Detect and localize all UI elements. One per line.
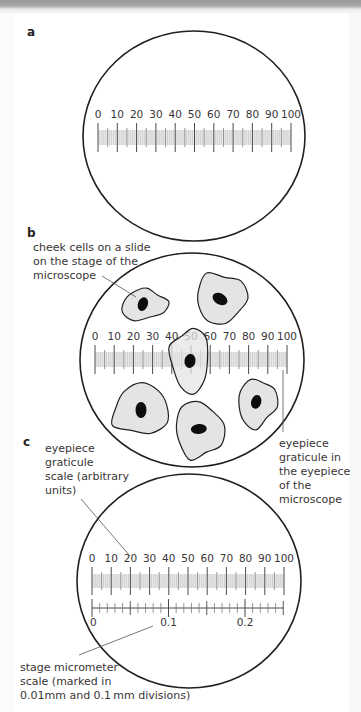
panel-c: c eyepiece graticule scale (arbitrary un… <box>20 435 301 702</box>
graticule-label: 0 <box>92 330 99 342</box>
graticule-label: 50 <box>181 552 194 564</box>
caption-line: microscope <box>33 269 96 282</box>
caption-line: graticule <box>45 456 94 469</box>
cheek-cell-5 <box>172 397 229 462</box>
graticule-label: 20 <box>127 330 140 342</box>
caption-line: units) <box>45 484 76 497</box>
cheek-cell-6 <box>234 377 282 433</box>
graticule-label: 70 <box>223 330 236 342</box>
caption-line: stage micrometer <box>20 661 118 674</box>
graticule-label: 10 <box>105 552 118 564</box>
caption-graticule-scale: eyepiece graticule scale (arbitrary unit… <box>45 442 133 497</box>
panel-a: a 0102030405060708090100 <box>27 25 305 241</box>
graticule-label: 60 <box>201 552 214 564</box>
graticule-label: 70 <box>220 552 233 564</box>
eyepiece-graticule-scale-a: 0102030405060708090100 <box>95 108 301 152</box>
microscope-graticule-diagram: a 0102030405060708090100 b cheek cells o… <box>0 0 361 712</box>
caption-line: scale (arbitrary <box>45 470 130 483</box>
graticule-label: 80 <box>242 330 255 342</box>
caption-line: the eyepiece <box>279 465 350 478</box>
panel-letter-b: b <box>27 226 36 240</box>
caption-line: on the stage of the <box>33 255 138 268</box>
graticule-label: 30 <box>149 108 162 120</box>
pointer-line-graticule-scale <box>81 499 130 556</box>
graticule-label: 0 <box>95 108 102 120</box>
graticule-label: 40 <box>169 108 182 120</box>
micrometer-label: 0.2 <box>237 616 254 628</box>
graticule-label: 80 <box>239 552 252 564</box>
graticule-label: 100 <box>281 108 301 120</box>
caption-line: cheek cells on a slide <box>33 241 151 254</box>
graticule-label: 50 <box>188 108 201 120</box>
graticule-label: 100 <box>274 552 294 564</box>
panel-letter-c: c <box>23 435 30 449</box>
panel-letter-a: a <box>27 25 35 39</box>
cheek-cell-4 <box>105 379 171 440</box>
graticule-label: 70 <box>226 108 239 120</box>
caption-line: eyepiece <box>45 442 95 455</box>
graticule-label: 20 <box>130 108 143 120</box>
caption-stage-micrometer: stage micrometer scale (marked in 0.01mm… <box>20 661 190 702</box>
graticule-label: 30 <box>143 552 156 564</box>
cell-nucleus <box>136 402 147 418</box>
graticule-label: 100 <box>277 330 297 342</box>
stage-micrometer-scale: 00.10.2 <box>90 599 284 628</box>
graticule-label: 90 <box>258 552 271 564</box>
caption-line: eyepiece <box>279 437 329 450</box>
graticule-label: 10 <box>108 330 121 342</box>
graticule-label: 60 <box>207 108 220 120</box>
caption-line: of the <box>279 479 311 492</box>
graticule-label: 90 <box>265 108 278 120</box>
cheek-cell-2 <box>198 272 248 324</box>
micrometer-label: 0 <box>90 616 97 628</box>
graticule-label: 0 <box>89 552 96 564</box>
graticule-label: 90 <box>261 330 274 342</box>
graticule-label: 40 <box>162 552 175 564</box>
caption-line: 0.01mm and 0.1 mm divisions) <box>20 689 190 702</box>
micrometer-label: 0.1 <box>160 616 177 628</box>
graticule-label: 30 <box>146 330 159 342</box>
caption-eyepiece-graticule: eyepiece graticule in the eyepiece of th… <box>279 437 354 506</box>
cheek-cell-1 <box>119 285 171 323</box>
graticule-label: 20 <box>124 552 137 564</box>
caption-line: scale (marked in <box>20 675 111 688</box>
caption-cheek-cells: cheek cells on a slide on the stage of t… <box>33 241 154 282</box>
eyepiece-graticule-scale-c: 0102030405060708090100 <box>89 552 294 595</box>
graticule-label: 10 <box>111 108 124 120</box>
graticule-label: 80 <box>246 108 259 120</box>
caption-line: microscope <box>279 493 342 506</box>
caption-line: graticule in <box>279 451 341 464</box>
